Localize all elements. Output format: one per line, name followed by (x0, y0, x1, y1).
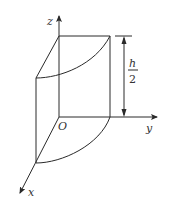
z-axis-label: z (46, 15, 53, 28)
top-edge-x (36, 36, 59, 78)
dimension-arrow-bottom (122, 109, 127, 117)
dimension-numerator: h (129, 57, 136, 70)
x-axis-label: x (28, 186, 35, 199)
origin-label: O (58, 120, 67, 133)
dimension-arrow-top (122, 36, 127, 44)
y-axis-label: y (145, 122, 153, 135)
diagram-canvas: z y x O h 2 (0, 0, 169, 213)
x-axis (20, 117, 59, 193)
dimension-denominator: 2 (129, 73, 136, 86)
